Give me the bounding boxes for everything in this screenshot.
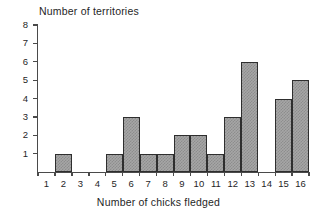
x-tick-label: 13 bbox=[244, 178, 255, 189]
x-tick-label: 2 bbox=[61, 178, 66, 189]
x-tick-label: 8 bbox=[162, 178, 167, 189]
x-tick-label: 10 bbox=[194, 178, 205, 189]
x-tick-label: 14 bbox=[261, 178, 272, 189]
y-tick-mark bbox=[33, 135, 37, 136]
y-tick-label: 4 bbox=[6, 93, 28, 104]
x-tick-label: 11 bbox=[211, 178, 221, 189]
histogram-bar bbox=[292, 80, 309, 172]
x-tick-label: 4 bbox=[95, 178, 100, 189]
x-tick-mark bbox=[258, 172, 259, 176]
x-tick-mark bbox=[190, 172, 191, 176]
y-tick-label: 7 bbox=[6, 37, 28, 48]
x-tick-label: 6 bbox=[129, 178, 134, 189]
x-tick-mark bbox=[291, 172, 292, 176]
y-tick-label: 6 bbox=[6, 56, 28, 67]
y-tick-label: 2 bbox=[6, 129, 28, 140]
x-tick-label: 1 bbox=[44, 178, 49, 189]
x-tick-label: 5 bbox=[112, 178, 117, 189]
y-tick-mark bbox=[33, 116, 37, 117]
histogram-figure: Number of territories 12345678 123456789… bbox=[0, 0, 317, 217]
x-tick-mark bbox=[122, 172, 123, 176]
histogram-bar bbox=[207, 154, 224, 172]
x-tick-mark bbox=[156, 172, 157, 176]
histogram-bar bbox=[224, 117, 241, 172]
x-tick-mark bbox=[37, 172, 38, 176]
x-tick-mark bbox=[173, 172, 174, 176]
x-tick-mark bbox=[139, 172, 140, 176]
x-tick-mark bbox=[275, 172, 276, 176]
x-tick-mark bbox=[105, 172, 106, 176]
x-tick-label: 3 bbox=[78, 178, 83, 189]
y-axis-line bbox=[37, 24, 38, 173]
histogram-bar bbox=[106, 154, 123, 172]
y-tick-label: 1 bbox=[6, 148, 28, 159]
histogram-bar bbox=[55, 154, 72, 172]
histogram-bar bbox=[275, 99, 292, 173]
x-tick-mark bbox=[241, 172, 242, 176]
x-tick-mark bbox=[308, 172, 309, 176]
x-tick-mark bbox=[71, 172, 72, 176]
y-tick-mark bbox=[33, 98, 37, 99]
y-tick-mark bbox=[33, 80, 37, 81]
y-tick-mark bbox=[33, 24, 37, 25]
x-tick-label: 16 bbox=[295, 178, 306, 189]
x-axis-title: Number of chicks fledged bbox=[0, 196, 317, 208]
x-tick-mark bbox=[54, 172, 55, 176]
x-tick-mark bbox=[88, 172, 89, 176]
x-tick-label: 12 bbox=[227, 178, 238, 189]
y-tick-label: 5 bbox=[6, 74, 28, 85]
y-tick-label: 8 bbox=[6, 19, 28, 30]
histogram-bar bbox=[157, 154, 174, 172]
y-tick-label: 3 bbox=[6, 111, 28, 122]
x-tick-label: 9 bbox=[179, 178, 184, 189]
histogram-bar bbox=[123, 117, 140, 172]
histogram-bar bbox=[241, 62, 258, 172]
histogram-bar bbox=[190, 135, 207, 172]
histogram-bar bbox=[174, 135, 191, 172]
x-tick-mark bbox=[224, 172, 225, 176]
x-tick-label: 15 bbox=[278, 178, 289, 189]
y-tick-mark bbox=[33, 43, 37, 44]
histogram-bar bbox=[140, 154, 157, 172]
y-tick-mark bbox=[33, 61, 37, 62]
y-tick-mark bbox=[33, 153, 37, 154]
y-axis-title: Number of territories bbox=[39, 5, 139, 17]
x-tick-label: 7 bbox=[145, 178, 150, 189]
x-tick-mark bbox=[207, 172, 208, 176]
